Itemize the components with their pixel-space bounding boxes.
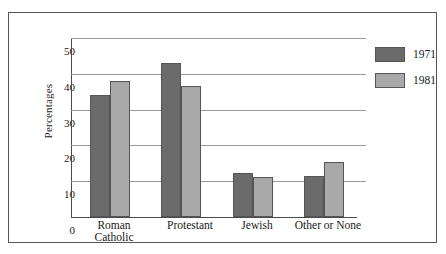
bar-1981-other-or-none xyxy=(324,162,344,217)
bar-1981-jewish xyxy=(253,177,273,217)
legend: 1971 1981 xyxy=(375,46,443,98)
legend-swatch-1971 xyxy=(375,47,405,62)
x-axis-baseline xyxy=(71,217,357,218)
bar-1971-roman-catholic xyxy=(90,95,110,217)
bar-1971-protestant xyxy=(161,63,181,217)
bar-1981-protestant xyxy=(181,86,201,217)
right-tick-30 xyxy=(357,110,366,111)
figure: Percentages 50 40 30 20 10 0 1971 1981 xyxy=(0,0,446,254)
bar-1971-other-or-none xyxy=(304,176,324,217)
scan-artifact xyxy=(90,0,280,6)
legend-swatch-1981 xyxy=(375,73,405,88)
legend-label-1981: 1981 xyxy=(413,75,436,87)
legend-item-1971: 1971 xyxy=(375,46,443,63)
right-tick-10 xyxy=(357,181,366,182)
right-tick-20 xyxy=(357,145,366,146)
x-tick-label-protestant: Protestant xyxy=(147,220,233,232)
right-tick-40 xyxy=(357,74,366,75)
x-tick-label-roman-catholic: Roman Catholic xyxy=(71,220,157,243)
legend-item-1981: 1981 xyxy=(375,72,443,89)
right-tick-50 xyxy=(357,38,366,39)
bar-1971-jewish xyxy=(233,173,253,217)
bar-1981-roman-catholic xyxy=(110,81,130,217)
legend-label-1971: 1971 xyxy=(413,49,436,61)
gridline-40 xyxy=(71,74,357,75)
plot-area xyxy=(71,38,357,217)
x-axis-tick-labels: Roman Catholic Protestant Jewish Other o… xyxy=(71,220,357,252)
x-tick-label-other-or-none: Other or None xyxy=(279,220,377,232)
gridline-50 xyxy=(71,38,357,39)
